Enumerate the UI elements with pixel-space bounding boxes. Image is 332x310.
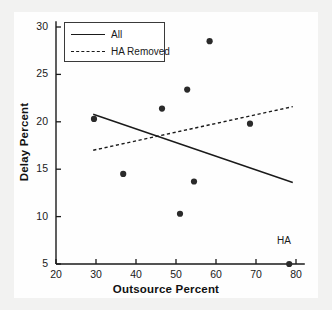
x-tick-label: 60 [204, 268, 228, 280]
x-tick-label: 40 [124, 268, 148, 280]
regression-line-ha-removed [93, 107, 293, 151]
scatter-point [286, 261, 292, 267]
x-tick-label: 50 [164, 268, 188, 280]
scatter-point [247, 121, 253, 127]
scatter-point [207, 38, 213, 44]
scatter-point [184, 86, 190, 92]
legend-item-all: All [71, 26, 122, 42]
legend: All HA Removed [64, 22, 165, 62]
x-axis-title: Outsource Percent [0, 283, 332, 295]
y-tick-label: 30 [26, 20, 48, 32]
scatter-point [191, 178, 197, 184]
point-label-ha: HA [277, 235, 291, 246]
x-tick-label: 30 [84, 268, 108, 280]
y-axis-title: Delay Percent [18, 72, 30, 212]
scatter-point [91, 116, 97, 122]
data-points [91, 38, 292, 267]
legend-swatch-dashed-line-icon [71, 46, 105, 56]
x-tick-label: 20 [44, 268, 68, 280]
legend-item-ha-removed: HA Removed [71, 43, 170, 59]
scatter-point [177, 211, 183, 217]
scatter-point [120, 171, 126, 177]
legend-swatch-solid-line-icon [71, 29, 105, 39]
scatter-point [159, 105, 165, 111]
chart-figure: 51015202530 20304050607080 HA Outsource … [0, 0, 332, 310]
legend-label-all: All [111, 29, 122, 40]
legend-label-ha-removed: HA Removed [111, 46, 170, 57]
x-tick-label: 80 [284, 268, 308, 280]
x-tick-label: 70 [244, 268, 268, 280]
